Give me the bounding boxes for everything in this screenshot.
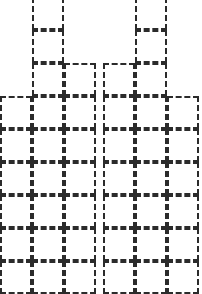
grid-cell[interactable] xyxy=(103,162,135,195)
grid-cell[interactable] xyxy=(135,129,167,162)
grid-cell[interactable] xyxy=(103,96,135,129)
grid-cell[interactable] xyxy=(64,162,96,195)
grid-cell[interactable] xyxy=(103,129,135,162)
grid-cell[interactable] xyxy=(64,96,96,129)
grid-cell[interactable] xyxy=(135,96,167,129)
grid-cell[interactable] xyxy=(64,63,96,96)
grid-cell[interactable] xyxy=(0,162,32,195)
grid-cell[interactable] xyxy=(103,228,135,261)
grid-cell[interactable] xyxy=(32,30,64,63)
grid-cell[interactable] xyxy=(32,261,64,294)
grid-cell[interactable] xyxy=(32,162,64,195)
grid-cell[interactable] xyxy=(32,129,64,162)
grid-cell[interactable] xyxy=(64,228,96,261)
figure-canvas xyxy=(0,0,202,294)
grid-cell[interactable] xyxy=(167,228,199,261)
unit-square-grid xyxy=(0,0,202,294)
grid-cell[interactable] xyxy=(32,195,64,228)
grid-cell[interactable] xyxy=(32,96,64,129)
grid-cell[interactable] xyxy=(135,30,167,63)
grid-cell[interactable] xyxy=(64,195,96,228)
grid-cell[interactable] xyxy=(135,228,167,261)
grid-cell[interactable] xyxy=(32,63,64,96)
grid-cell[interactable] xyxy=(167,96,199,129)
grid-cell[interactable] xyxy=(135,162,167,195)
grid-cell[interactable] xyxy=(167,162,199,195)
grid-cell[interactable] xyxy=(167,261,199,294)
grid-cell[interactable] xyxy=(0,195,32,228)
grid-cell[interactable] xyxy=(0,96,32,129)
grid-cell[interactable] xyxy=(0,261,32,294)
grid-cell[interactable] xyxy=(135,261,167,294)
grid-cell[interactable] xyxy=(167,129,199,162)
grid-cell[interactable] xyxy=(135,63,167,96)
grid-cell[interactable] xyxy=(64,261,96,294)
grid-cell[interactable] xyxy=(135,195,167,228)
grid-cell[interactable] xyxy=(167,195,199,228)
grid-cell[interactable] xyxy=(0,129,32,162)
grid-cell[interactable] xyxy=(32,0,64,30)
grid-cell[interactable] xyxy=(135,0,167,30)
grid-cell[interactable] xyxy=(0,228,32,261)
grid-cell[interactable] xyxy=(103,63,135,96)
grid-cell[interactable] xyxy=(64,129,96,162)
grid-cell[interactable] xyxy=(103,261,135,294)
grid-cell[interactable] xyxy=(103,195,135,228)
grid-cell[interactable] xyxy=(32,228,64,261)
